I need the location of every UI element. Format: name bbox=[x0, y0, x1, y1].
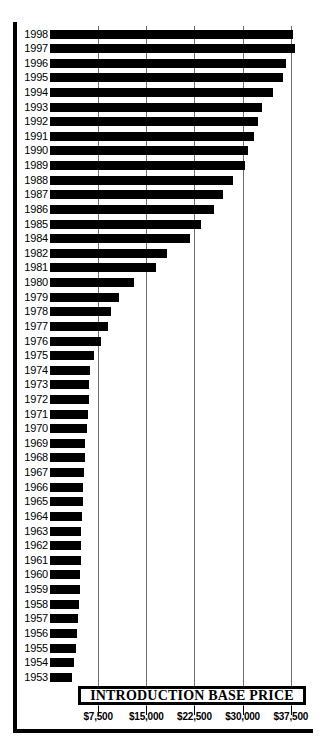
y-axis-label-1955: 1955 bbox=[17, 643, 50, 654]
x-axis-tick-label: $15,000 bbox=[129, 712, 164, 722]
bar-row: 1962 bbox=[17, 539, 81, 553]
chart-title: INTRODUCTION BASE PRICE bbox=[90, 689, 294, 703]
y-axis-label-1966: 1966 bbox=[17, 482, 50, 493]
bar-1962 bbox=[50, 541, 81, 550]
bar-row: 1963 bbox=[17, 524, 81, 538]
bar-row: 1975 bbox=[17, 349, 94, 363]
bar-row: 1986 bbox=[17, 202, 214, 216]
bar-row: 1982 bbox=[17, 246, 167, 260]
bar-row: 1964 bbox=[17, 509, 82, 523]
y-axis-label-1982: 1982 bbox=[17, 248, 50, 259]
bar-row: 1981 bbox=[17, 261, 156, 275]
gridline-37500 bbox=[291, 26, 292, 710]
bar-1981 bbox=[50, 263, 156, 272]
y-axis-label-1992: 1992 bbox=[17, 116, 50, 127]
y-axis-label-1960: 1960 bbox=[17, 569, 50, 580]
bar-1977 bbox=[50, 322, 108, 331]
bar-1966 bbox=[50, 483, 83, 492]
bar-1984 bbox=[50, 234, 190, 243]
bar-row: 1987 bbox=[17, 188, 223, 202]
y-axis-label-1975: 1975 bbox=[17, 350, 50, 361]
bar-row: 1969 bbox=[17, 436, 85, 450]
y-axis-label-1959: 1959 bbox=[17, 584, 50, 595]
bar-row: 1957 bbox=[17, 612, 78, 626]
y-axis-label-1978: 1978 bbox=[17, 306, 50, 317]
bar-row: 1989 bbox=[17, 159, 245, 173]
bar-1998 bbox=[50, 30, 293, 39]
bar-1968 bbox=[50, 453, 85, 462]
x-axis-tick-label: $37,500 bbox=[273, 712, 308, 722]
bar-1990 bbox=[50, 146, 248, 155]
bar-1956 bbox=[50, 629, 77, 638]
bar-1955 bbox=[50, 644, 76, 653]
y-axis-label-1970: 1970 bbox=[17, 423, 50, 434]
x-axis-tick-labels: $7,500$15,000$22,500$30,000$37,500 bbox=[0, 712, 327, 728]
y-axis-label-1985: 1985 bbox=[17, 219, 50, 230]
bar-row: 1976 bbox=[17, 334, 101, 348]
bar-1959 bbox=[50, 585, 80, 594]
bar-1960 bbox=[50, 570, 80, 579]
bar-1982 bbox=[50, 249, 167, 258]
bar-row: 1958 bbox=[17, 597, 79, 611]
bar-1988 bbox=[50, 176, 233, 185]
bar-1961 bbox=[50, 556, 81, 565]
bar-1973 bbox=[50, 380, 89, 389]
y-axis-label-1991: 1991 bbox=[17, 131, 50, 142]
bar-1989 bbox=[50, 161, 245, 170]
y-axis-label-1967: 1967 bbox=[17, 467, 50, 478]
bar-1963 bbox=[50, 527, 81, 536]
bar-row: 1997 bbox=[17, 42, 295, 56]
x-axis-tick-label: $30,000 bbox=[225, 712, 260, 722]
bar-row: 1968 bbox=[17, 451, 85, 465]
y-axis-label-1979: 1979 bbox=[17, 292, 50, 303]
bar-row: 1971 bbox=[17, 407, 88, 421]
y-axis-label-1986: 1986 bbox=[17, 204, 50, 215]
bar-1965 bbox=[50, 497, 83, 506]
bar-1985 bbox=[50, 220, 201, 229]
bar-1991 bbox=[50, 132, 254, 141]
bar-row: 1967 bbox=[17, 466, 84, 480]
bar-row: 1955 bbox=[17, 641, 76, 655]
y-axis-label-1977: 1977 bbox=[17, 321, 50, 332]
y-axis-label-1973: 1973 bbox=[17, 379, 50, 390]
y-axis-label-1984: 1984 bbox=[17, 233, 50, 244]
y-axis-label-1995: 1995 bbox=[17, 72, 50, 83]
y-axis-label-1997: 1997 bbox=[17, 43, 50, 54]
bar-row: 1978 bbox=[17, 305, 111, 319]
y-axis-label-1987: 1987 bbox=[17, 189, 50, 200]
y-axis-label-1993: 1993 bbox=[17, 102, 50, 113]
bar-1970 bbox=[50, 424, 87, 433]
bar-row: 1979 bbox=[17, 290, 119, 304]
bar-row: 1972 bbox=[17, 393, 89, 407]
bar-row: 1960 bbox=[17, 568, 80, 582]
bar-1958 bbox=[50, 600, 79, 609]
bar-1980 bbox=[50, 278, 134, 287]
y-axis-label-1994: 1994 bbox=[17, 87, 50, 98]
y-axis-label-1954: 1954 bbox=[17, 657, 50, 668]
bar-row: 1959 bbox=[17, 583, 80, 597]
bar-1976 bbox=[50, 337, 101, 346]
bar-row: 1990 bbox=[17, 144, 248, 158]
y-axis-label-1956: 1956 bbox=[17, 628, 50, 639]
bar-row: 1966 bbox=[17, 480, 83, 494]
bar-row: 1992 bbox=[17, 115, 258, 129]
bar-row: 1977 bbox=[17, 319, 108, 333]
bar-1953 bbox=[50, 673, 72, 682]
bar-1992 bbox=[50, 117, 258, 126]
y-axis-label-1980: 1980 bbox=[17, 277, 50, 288]
y-axis-label-1964: 1964 bbox=[17, 511, 50, 522]
y-axis-label-1963: 1963 bbox=[17, 526, 50, 537]
bar-row: 1970 bbox=[17, 422, 87, 436]
y-axis-label-1998: 1998 bbox=[17, 29, 50, 40]
bar-1972 bbox=[50, 395, 89, 404]
bar-1996 bbox=[50, 59, 286, 68]
bar-1971 bbox=[50, 410, 88, 419]
x-axis-tick-label: $7,500 bbox=[83, 712, 112, 722]
bar-row: 1984 bbox=[17, 232, 190, 246]
plot-area: 1998199719961995199419931992199119901989… bbox=[0, 0, 327, 755]
bar-1957 bbox=[50, 614, 78, 623]
y-axis-label-1996: 1996 bbox=[17, 58, 50, 69]
bar-row: 1974 bbox=[17, 363, 90, 377]
y-axis-label-1969: 1969 bbox=[17, 438, 50, 449]
y-axis-label-1958: 1958 bbox=[17, 599, 50, 610]
